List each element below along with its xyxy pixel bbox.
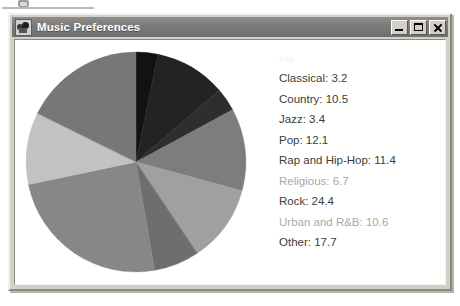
maximize-icon <box>414 23 423 31</box>
music-preferences-window: Music Preferences <box>8 13 452 291</box>
legend-item-other: Other: 17.7 <box>279 232 445 253</box>
legend-list: Classical: 3.2Country: 10.5Jazz: 3.4Pop:… <box>267 68 445 253</box>
minimize-icon <box>395 29 403 31</box>
legend-pane: Key Classical: 3.2Country: 10.5Jazz: 3.4… <box>267 40 445 284</box>
window-controls <box>391 20 446 35</box>
artifact-rule <box>2 7 94 9</box>
close-button[interactable] <box>429 20 446 35</box>
window-titlebar[interactable]: Music Preferences <box>12 17 448 37</box>
screen: Music Preferences <box>0 0 460 306</box>
legend-item-pop: Pop: 12.1 <box>279 130 445 151</box>
legend-item-jazz: Jazz: 3.4 <box>279 109 445 130</box>
legend-item-religious: Religious: 6.7 <box>279 171 445 192</box>
cropped-toolbar-artifact <box>0 0 95 12</box>
legend-item-classical: Classical: 3.2 <box>279 68 445 89</box>
minimize-button[interactable] <box>391 20 408 35</box>
legend-item-rap-hip-hop: Rap and Hip-Hop: 11.4 <box>279 150 445 171</box>
legend-item-country: Country: 10.5 <box>279 89 445 110</box>
pie-chart <box>25 51 247 273</box>
legend-item-urban-rnb: Urban and R&B: 10.6 <box>279 212 445 233</box>
pie-chart-svg <box>25 51 247 273</box>
maximize-button[interactable] <box>410 20 427 35</box>
window-client-area: Key Classical: 3.2Country: 10.5Jazz: 3.4… <box>14 39 446 285</box>
legend-heading: Key <box>279 54 445 63</box>
legend-item-rock: Rock: 24.4 <box>279 191 445 212</box>
window-title: Music Preferences <box>37 21 391 33</box>
chart-pane <box>15 40 267 284</box>
artifact-icon-inner <box>20 2 27 6</box>
music-note-icon <box>15 19 32 36</box>
